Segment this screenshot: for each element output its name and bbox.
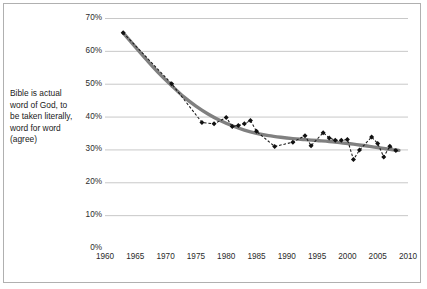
y-axis-tick-label: 70% [62,14,102,22]
y-axis-tick-label: 40% [62,113,102,121]
y-axis-tick-label: 10% [62,211,102,219]
data-point-marker [248,118,253,123]
x-axis-tick-labels: 1960196519701975198019851990199520002005… [105,252,408,266]
y-axis-tick-label: 0% [62,244,102,252]
data-point-marker [224,115,229,120]
chart-screenshot: (Gallup) Bible is actual word of God, to… [0,0,427,289]
data-point-marker [345,137,350,142]
y-axis-tick-label: 50% [62,80,102,88]
data-point-marker [242,121,247,126]
data-point-marker [381,154,386,159]
data-point-markers [121,30,399,162]
y-axis-tick-labels: 0%10%20%30%40%50%60%70% [58,18,102,248]
y-axis-tick-label: 30% [62,145,102,153]
plot-area [105,18,408,248]
x-axis-tick-label: 2010 [388,252,427,261]
data-point-marker [351,157,356,162]
y-axis-tick-label: 20% [62,178,102,186]
data-point-marker [302,133,307,138]
trendline [123,33,399,151]
chart-svg [105,18,408,248]
data-point-marker [212,121,217,126]
y-axis-tick-label: 60% [62,47,102,55]
